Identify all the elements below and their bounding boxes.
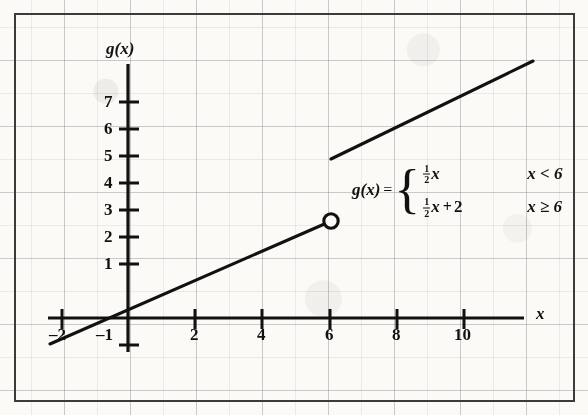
fraction-numerator: 1 <box>423 197 430 207</box>
x-tick-label-8: 8 <box>392 326 401 343</box>
formula-rows: 1 2 x x < 6 1 2 x + 2 x ≥ 6 <box>423 163 562 218</box>
fraction-one-half-2: 1 2 <box>423 197 430 218</box>
segment-upper-branch <box>331 61 533 159</box>
x-tick-label-6: 6 <box>325 326 334 343</box>
y-tick-label-3: 3 <box>104 201 113 218</box>
formula-expression-1: 1 2 x <box>423 163 527 184</box>
fraction-numerator: 1 <box>423 164 430 174</box>
formula-condition-2: x ≥ 6 <box>527 197 562 217</box>
formula-function-name: g(x) <box>352 180 380 200</box>
formula-expression-2: 1 2 x + 2 <box>423 196 527 217</box>
y-tick-label-6: 6 <box>104 120 113 137</box>
expression-variable-1: x <box>431 164 440 184</box>
y-tick-label-7: 7 <box>104 93 113 110</box>
y-tick-label-5: 5 <box>104 147 113 164</box>
formula-equals-sign: = <box>383 181 392 199</box>
expression-variable-2: x <box>431 197 440 217</box>
formula-condition-1: x < 6 <box>527 164 562 184</box>
open-circle-endpoint <box>324 214 338 228</box>
y-tick-label-1: 1 <box>104 255 113 272</box>
piecewise-formula: g(x) = { 1 2 x x < 6 1 2 <box>352 163 562 218</box>
expression-constant: 2 <box>454 197 463 217</box>
formula-row-2: 1 2 x + 2 x ≥ 6 <box>423 196 562 217</box>
x-axis-label: x <box>536 305 545 322</box>
y-axis-label: g(x) <box>106 40 134 57</box>
y-tick-label-4: 4 <box>104 174 113 191</box>
y-tick-label-neg1: –1 <box>96 326 113 343</box>
x-tick-label-neg2: –2 <box>49 326 66 343</box>
x-tick-label-2: 2 <box>190 326 199 343</box>
formula-row-1: 1 2 x x < 6 <box>423 163 562 184</box>
fraction-denominator: 2 <box>423 174 430 185</box>
formula-brace: { <box>394 168 420 210</box>
figure-stage: g(x) x 7 6 5 4 3 2 1 –1 –2 2 4 6 8 10 g(… <box>0 0 588 415</box>
fraction-denominator: 2 <box>423 207 430 218</box>
expression-plus-sign: + <box>443 198 452 216</box>
x-tick-label-4: 4 <box>257 326 266 343</box>
x-tick-label-10: 10 <box>454 326 471 343</box>
y-tick-label-2: 2 <box>104 228 113 245</box>
fraction-one-half-1: 1 2 <box>423 164 430 185</box>
